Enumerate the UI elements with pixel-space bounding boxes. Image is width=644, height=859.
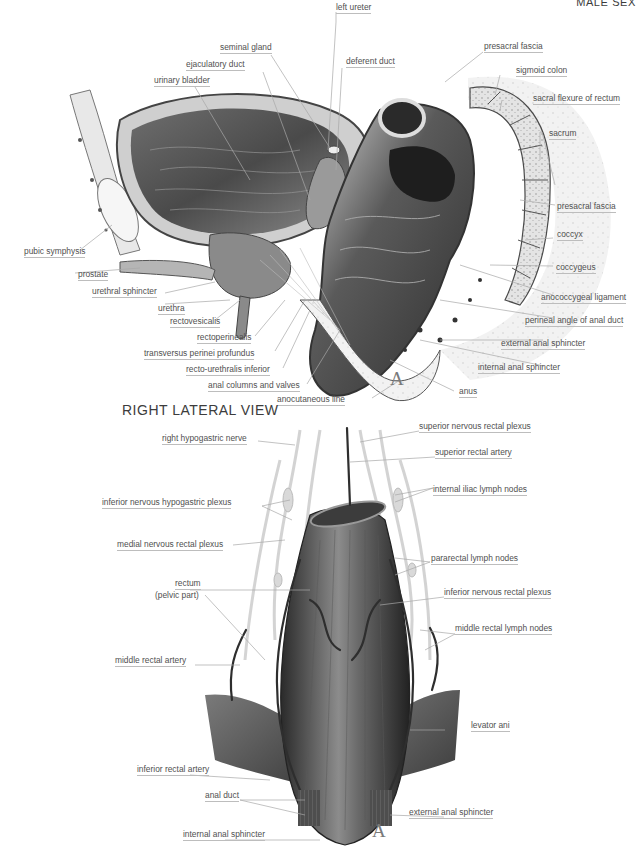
label-transversus-perinei: transversus perinei profundus xyxy=(144,348,254,360)
label-urinary-bladder: urinary bladder xyxy=(154,75,210,87)
label-rectovesicalis: rectovesicalis xyxy=(170,316,220,328)
marker-a-bottom: A xyxy=(372,820,386,842)
label-urethral-sphincter: urethral sphincter xyxy=(92,286,157,298)
label-middle-rectal-artery: middle rectal artery xyxy=(115,655,186,667)
label-internal-anal-sphincter-top: internal anal sphincter xyxy=(478,362,560,374)
label-left-ureter: left ureter xyxy=(336,2,371,14)
label-sacrum: sacrum xyxy=(549,128,576,140)
label-anal-columns: anal columns and valves xyxy=(208,380,300,392)
label-internal-anal-sphincter: internal anal sphincter xyxy=(183,829,265,841)
label-perineal-angle: perineal angle of anal duct xyxy=(525,315,623,327)
anatomy-illustration xyxy=(0,0,644,859)
label-rectum: rectum xyxy=(175,578,201,590)
label-seminal-gland: seminal gland xyxy=(220,42,272,54)
label-presacral-fascia: presacral fascia xyxy=(557,201,616,213)
label-urethra: urethra xyxy=(158,303,185,315)
label-anocutaneous-line: anocutaneous line xyxy=(277,394,345,406)
label-anus: anus xyxy=(459,386,477,398)
label-rectum-sub: (pelvic part) xyxy=(155,590,199,601)
label-sigmoid-colon: sigmoid colon xyxy=(516,65,567,77)
view-title: RIGHT LATERAL VIEW xyxy=(122,402,279,418)
label-anococcygeal-ligament: anococcygeal ligament xyxy=(541,292,626,304)
label-medial-nervous-rectal-plexus: medial nervous rectal plexus xyxy=(117,539,223,551)
label-pararectal-lymph-nodes: pararectal lymph nodes xyxy=(431,553,518,565)
label-superior-nervous-rectal-plexus: superior nervous rectal plexus xyxy=(419,421,531,433)
label-external-anal-sphincter-top: external anal sphincter xyxy=(501,338,585,350)
label-right-hypogastric-nerve: right hypogastric nerve xyxy=(162,433,247,445)
label-internal-iliac-lymph-nodes: internal iliac lymph nodes xyxy=(433,484,527,496)
label-levator-ani: levator ani xyxy=(471,720,510,732)
label-recto-urethralis: recto-urethralis inferior xyxy=(186,364,270,376)
label-deferent-duct: deferent duct xyxy=(346,56,395,68)
label-middle-rectal-lymph-nodes: middle rectal lymph nodes xyxy=(455,623,552,635)
label-inferior-rectal-artery: inferior rectal artery xyxy=(137,764,209,776)
label-ejaculatory-duct: ejaculatory duct xyxy=(186,59,245,71)
label-coccyx: coccyx xyxy=(557,229,583,241)
label-rectoperinealis: rectoperinealis xyxy=(197,332,251,344)
label-anal-duct: anal duct xyxy=(205,790,239,802)
label-external-anal-sphincter: external anal sphincter xyxy=(409,807,493,819)
label-coccygeus: coccygeus xyxy=(556,262,596,274)
label-prostate: prostate xyxy=(78,269,108,281)
label-inferior-nervous-rectal-plexus: inferior nervous rectal plexus xyxy=(444,587,551,599)
marker-a-top: A xyxy=(390,368,404,390)
label-presacral-fascia-top: presacral fascia xyxy=(484,41,543,53)
label-sacral-flexure: sacral flexure of rectum xyxy=(533,93,620,105)
label-inferior-nervous-hypogastric-plexus: inferior nervous hypogastric plexus xyxy=(102,497,231,509)
label-superior-rectal-artery: superior rectal artery xyxy=(435,447,512,459)
label-pubic-symphysis: pubic symphysis xyxy=(24,246,85,258)
